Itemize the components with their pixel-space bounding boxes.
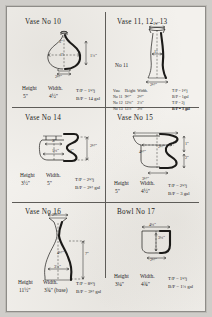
note-bottom-weight: B/P = 3½ gal: [76, 288, 101, 296]
height-spec: Height 3¼": [114, 273, 129, 289]
sub-label: No 11: [115, 62, 128, 70]
dim-label-2: 1": [60, 52, 64, 57]
dim-label-2: 2½": [158, 144, 165, 149]
note-2: B/P = 1gal: [172, 95, 190, 101]
throwing-notes: T/P = 1½j B/P = 1¾ gal: [168, 275, 193, 291]
dim-label-1: 4½": [139, 149, 146, 154]
width-spec: Width. 4¾": [140, 273, 155, 289]
dim-label-2: 4½": [57, 250, 64, 255]
height-label: Height: [20, 172, 35, 178]
width-value: 3¾" (base): [43, 287, 67, 295]
dim-label-2: 3¼": [158, 235, 165, 240]
dim-label-2: 1¼": [52, 148, 59, 153]
width-spec: Width. 5": [46, 172, 61, 188]
panel-title: Vase No 15: [117, 114, 153, 122]
vase-15-drawing: [126, 126, 192, 178]
vase-11-drawing: [136, 26, 180, 84]
dim-label-1: 2": [52, 138, 56, 143]
height-label: Height: [114, 273, 129, 279]
dim-label-1: 1½": [153, 21, 160, 26]
panel-vase-15: Vase No 15: [106, 108, 199, 202]
width-value: 4½": [140, 188, 155, 196]
bowl-17-drawing: [132, 223, 188, 265]
throwing-notes: T/P = 8½j B/P = 3½ gal: [76, 280, 101, 296]
note-top-weight: T/P = 1½j: [76, 87, 100, 95]
note-top-weight: T/P = 2½j: [75, 176, 100, 184]
panel-title: Vase No 10: [25, 18, 61, 26]
vase-14-drawing: [34, 128, 98, 170]
width-value: 4½": [48, 93, 63, 101]
vase-10-drawing: [36, 31, 94, 79]
panel-grid: Vase No 10: [12, 12, 199, 300]
width-label: Width.: [140, 180, 155, 186]
width-value: 4¾": [140, 281, 155, 289]
dim-label-1: 4¼": [149, 222, 156, 227]
note-top-weight: T/P = 8½j: [76, 280, 101, 288]
height-spec: Height 5": [114, 180, 129, 196]
panel-vase-16: Vase No 16: [12, 203, 105, 300]
width-value: 5": [46, 180, 61, 188]
throwing-notes: T/P = 1½j B/P = 14 gal: [76, 87, 100, 103]
dim-label-4: 7": [85, 251, 89, 256]
panel-vase-10: Vase No 10: [12, 12, 105, 107]
height-spec: Height 3½": [20, 172, 35, 188]
note-bottom-weight: B/P = 1¾ gal: [168, 283, 193, 291]
note-bottom-weight: B/P = 2½ gal: [75, 184, 100, 192]
dim-label-3: 1¾": [90, 53, 97, 58]
panel-vase-11-12-13: Vase 11, 12 , 13: [106, 12, 199, 107]
height-spec: Height 5": [22, 85, 37, 101]
throwing-notes: T/P = 2½j B/P = 2½ gal: [75, 176, 100, 192]
throwing-notes: T/P = 2½j B/P = 3 gal: [168, 182, 190, 198]
note-top-weight: T/P = 2½j: [168, 182, 190, 190]
note-top-weight: T/P = 1½j: [168, 275, 193, 283]
height-value: 5": [114, 188, 129, 196]
dim-label-4: 1": [185, 141, 189, 146]
height-value: 5": [22, 93, 37, 101]
dim-label-1: 2½": [52, 212, 59, 217]
width-spec: Width. 4½": [140, 180, 155, 196]
note-1: T/P = 1½j: [172, 89, 190, 95]
screenshot-root: Vase No 10: [0, 0, 212, 317]
width-spec: Width. 4½": [48, 85, 63, 101]
dim-label-4: 2½": [90, 143, 97, 148]
dim-label-4: 2½": [55, 74, 62, 79]
width-label: Width.: [140, 273, 155, 279]
dim-label-1: 3": [59, 39, 63, 44]
dim-label-3: 1": [70, 148, 74, 153]
dim-label-3: 3¾": [54, 264, 61, 269]
height-value: 3½": [20, 180, 35, 188]
dim-label-3: 2½": [150, 82, 157, 87]
width-label: Width.: [48, 85, 63, 91]
width-label: Width.: [46, 172, 61, 178]
dim-label-3: 2½": [150, 257, 157, 262]
width-label: Width.: [43, 279, 58, 285]
height-label: Height: [22, 85, 37, 91]
height-label: Height: [114, 180, 129, 186]
note-bottom-weight: B/P = 3 gal: [168, 190, 190, 198]
panel-title: Vase No 14: [25, 114, 61, 122]
height-label: Height: [18, 279, 33, 285]
dim-label-2: 1": [154, 49, 158, 54]
scanned-sheet: Vase No 10: [6, 6, 206, 312]
panel-bowl-17: Bowl No 17 4¼" 3¼": [106, 203, 199, 300]
height-value: 11½": [18, 287, 33, 295]
height-spec: Height 11½": [18, 279, 33, 295]
panel-title: Bowl No 17: [117, 208, 155, 216]
panel-vase-14: Vase No 14: [12, 108, 105, 202]
note-bottom-weight: B/P = 14 gal: [76, 95, 100, 103]
table-header-row: Vase Height Width.: [113, 89, 150, 95]
dim-label-5: 2": [185, 155, 189, 160]
width-spec: Width. 3¾" (base): [43, 279, 67, 295]
height-value: 3¼": [114, 281, 129, 289]
